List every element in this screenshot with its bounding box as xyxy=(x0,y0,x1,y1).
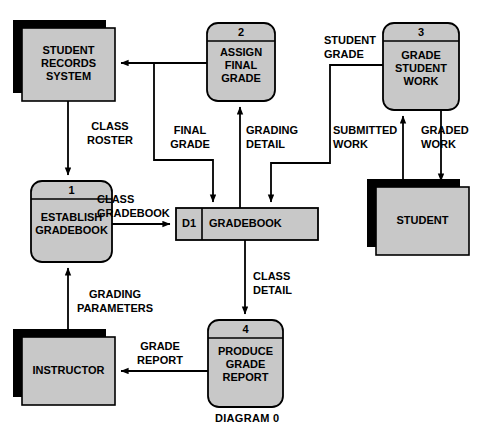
flow-class-roster-label: CLASS ROSTER xyxy=(71,120,149,147)
process-4-number: 4 xyxy=(208,323,283,335)
entity-student-records-system-shape xyxy=(13,20,115,101)
datastore-d1-label: GRADEBOOK xyxy=(209,217,314,229)
process-3-number: 3 xyxy=(383,26,459,38)
entity-student-shape xyxy=(367,179,469,255)
flow-graded-work-label: GRADED WORK xyxy=(421,124,481,151)
flow-student-grade-label: STUDENT GRADE xyxy=(324,34,390,61)
process-2-number: 2 xyxy=(207,26,275,38)
entity-instructor-shape xyxy=(13,329,115,405)
flow-class-gradebook-label: CLASS GRADEBOOK xyxy=(97,193,175,220)
datastore-d1-code: D1 xyxy=(176,217,202,229)
flow-grading-detail-label: GRADING DETAIL xyxy=(246,124,316,151)
dfd-diagram-canvas: STUDENT RECORDS SYSTEM INSTRUCTOR STUDEN… xyxy=(0,0,492,434)
diagram-title: DIAGRAM 0 xyxy=(215,412,279,424)
flow-class-detail-label: CLASS DETAIL xyxy=(253,270,315,297)
flow-final-grade-label: FINAL GRADE xyxy=(162,124,218,151)
flow-grading-parameters-label: GRADING PARAMETERS xyxy=(63,288,167,315)
flow-grade-report-label: GRADE REPORT xyxy=(128,340,192,367)
flow-submitted-work-label: SUBMITTED WORK xyxy=(333,124,407,151)
